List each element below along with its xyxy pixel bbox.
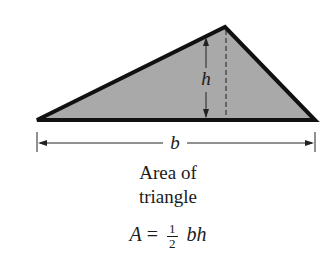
formula-rhs: bh (187, 223, 207, 245)
arrow-left-icon (38, 140, 47, 146)
area-formula: A = 1 2 bh (0, 222, 336, 251)
fraction-denominator: 2 (167, 237, 178, 251)
base-label: b (170, 132, 180, 153)
arrow-right-icon (305, 140, 314, 146)
caption-line-1: Area of (0, 162, 336, 184)
formula-lhs: A (130, 223, 142, 245)
fraction-numerator: 1 (167, 222, 178, 237)
fraction: 1 2 (167, 222, 178, 251)
height-label: h (201, 68, 211, 89)
formula-equals: = (147, 223, 158, 245)
caption-line-2: triangle (0, 186, 336, 208)
triangle-shape (37, 27, 315, 120)
